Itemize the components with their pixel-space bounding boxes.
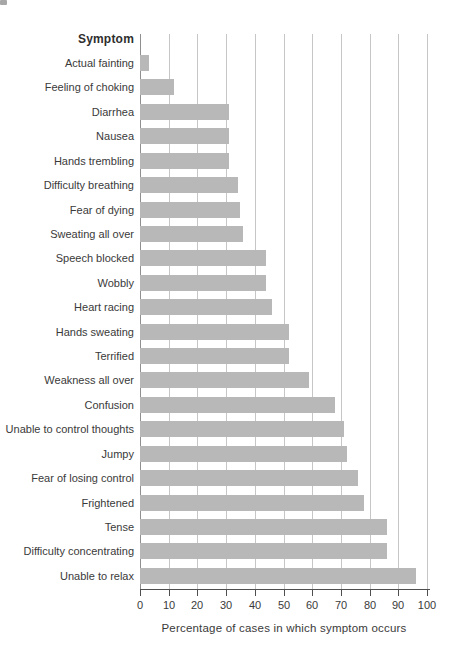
bar-label: Confusion (0, 397, 134, 413)
bar-label: Frightened (0, 495, 134, 511)
bar (140, 104, 229, 120)
bar-label: Nausea (0, 128, 134, 144)
x-tick-mark (140, 589, 141, 596)
x-tick-label: 100 (410, 599, 444, 611)
bar-label: Tense (0, 519, 134, 535)
bar-label: Difficulty concentrating (0, 543, 134, 559)
bar-label: Wobbly (0, 275, 134, 291)
x-tick-mark (427, 589, 428, 596)
bar (140, 153, 229, 169)
bar (140, 177, 238, 193)
bar-label: Jumpy (0, 446, 134, 462)
bar-label: Diarrhea (0, 104, 134, 120)
bar-label: Feeling of choking (0, 79, 134, 95)
gridline (427, 34, 428, 589)
bar-label: Fear of dying (0, 202, 134, 218)
x-axis-title: Percentage of cases in which symptom occ… (140, 622, 428, 634)
bar (140, 372, 309, 388)
bar (140, 226, 243, 242)
gridline (398, 34, 399, 589)
bar (140, 446, 347, 462)
x-axis-line (140, 589, 430, 590)
x-tick-mark (226, 589, 227, 596)
x-tick-mark (197, 589, 198, 596)
chart-title: Symptom (0, 32, 134, 46)
bar-label: Speech blocked (0, 250, 134, 266)
scan-artifact (0, 0, 7, 5)
bar (140, 128, 229, 144)
bar-label: Fear of losing control (0, 470, 134, 486)
bar (140, 324, 289, 340)
bar-label: Actual fainting (0, 55, 134, 71)
bar (140, 202, 240, 218)
bar (140, 79, 174, 95)
bar-label: Sweating all over (0, 226, 134, 242)
x-tick-mark (255, 589, 256, 596)
x-tick-mark (370, 589, 371, 596)
bar (140, 495, 364, 511)
bar-label: Terrified (0, 348, 134, 364)
gridline (370, 34, 371, 589)
bar (140, 397, 335, 413)
bar-label: Hands trembling (0, 153, 134, 169)
x-tick-mark (284, 589, 285, 596)
x-tick-mark (398, 589, 399, 596)
bar-label: Hands sweating (0, 324, 134, 340)
bar-label: Heart racing (0, 299, 134, 315)
x-tick-mark (169, 589, 170, 596)
bar-chart: Symptom Actual faintingFeeling of chokin… (0, 0, 460, 666)
bar (140, 275, 266, 291)
bar (140, 543, 387, 559)
bar (140, 568, 416, 584)
bar-label: Unable to relax (0, 568, 134, 584)
bar (140, 299, 272, 315)
bar-label: Difficulty breathing (0, 177, 134, 193)
bar (140, 421, 344, 437)
bar-label: Unable to control thoughts (0, 421, 134, 437)
bar (140, 250, 266, 266)
bar (140, 519, 387, 535)
x-tick-mark (341, 589, 342, 596)
bar (140, 55, 149, 71)
x-tick-mark (312, 589, 313, 596)
bar (140, 470, 358, 486)
bar-label: Weakness all over (0, 372, 134, 388)
bar (140, 348, 289, 364)
